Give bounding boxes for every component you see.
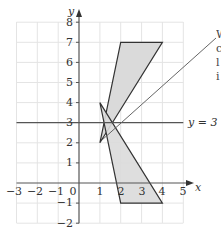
callout-line: l bbox=[216, 56, 221, 70]
y-tick-label: 3 bbox=[66, 116, 73, 129]
y-axis-arrow-icon bbox=[76, 9, 82, 17]
image-triangle bbox=[100, 103, 162, 204]
coordinate-grid-diagram: y x 8 7 6 5 4 3 2 1 −1 −2 −3 −2 −1 0 1 2… bbox=[0, 0, 221, 234]
x-tick-label: 2 bbox=[118, 185, 125, 198]
callout-text: W c l i bbox=[216, 28, 221, 84]
callout-line: c bbox=[216, 42, 221, 56]
y-tick-label: 7 bbox=[66, 36, 73, 49]
y-tick-label: −2 bbox=[57, 217, 73, 230]
x-axis-arrow-icon bbox=[186, 180, 194, 186]
x-tick-label: −3 bbox=[6, 185, 22, 198]
y-tick-label: 5 bbox=[66, 76, 73, 89]
y-tick-label: 8 bbox=[66, 16, 73, 29]
x-tick-label: 3 bbox=[139, 185, 146, 198]
x-tick-label: 5 bbox=[180, 185, 187, 198]
y-tick-label: 4 bbox=[66, 96, 73, 109]
x-tick-label: 1 bbox=[97, 185, 104, 198]
callout-line: i bbox=[216, 70, 221, 84]
x-axis-label: x bbox=[195, 181, 202, 194]
x-tick-label: −2 bbox=[27, 185, 43, 198]
x-tick-label: −1 bbox=[48, 185, 64, 198]
callout-line: W bbox=[216, 28, 221, 42]
mirror-line-label: y = 3 bbox=[187, 116, 217, 129]
x-tick-label: 0 bbox=[70, 185, 77, 198]
y-tick-label: 1 bbox=[66, 156, 73, 169]
y-tick-label: 6 bbox=[66, 56, 73, 69]
y-tick-label: 2 bbox=[66, 136, 73, 149]
x-tick-label: 4 bbox=[159, 185, 166, 198]
